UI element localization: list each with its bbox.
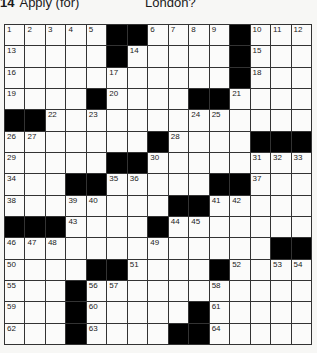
grid-cell[interactable] — [148, 174, 167, 194]
grid-cell[interactable] — [128, 238, 147, 258]
grid-cell[interactable] — [271, 281, 290, 301]
grid-cell[interactable] — [189, 238, 208, 258]
grid-cell[interactable]: 25 — [210, 110, 229, 130]
grid-cell[interactable] — [169, 281, 188, 301]
grid-cell[interactable] — [292, 68, 311, 88]
grid-cell[interactable] — [169, 153, 188, 173]
grid-cell[interactable]: 36 — [128, 174, 147, 194]
grid-cell[interactable]: 62 — [5, 324, 24, 344]
grid-cell[interactable]: 57 — [107, 281, 126, 301]
grid-cell[interactable] — [107, 110, 126, 130]
grid-cell[interactable]: 23 — [87, 110, 106, 130]
grid-cell[interactable] — [128, 110, 147, 130]
grid-cell[interactable] — [148, 68, 167, 88]
grid-cell[interactable] — [87, 68, 106, 88]
grid-cell[interactable] — [169, 260, 188, 280]
grid-cell[interactable] — [230, 324, 249, 344]
grid-cell[interactable]: 3 — [46, 25, 65, 45]
grid-cell[interactable] — [25, 153, 44, 173]
grid-cell[interactable]: 4 — [66, 25, 85, 45]
grid-cell[interactable] — [148, 302, 167, 322]
grid-cell[interactable]: 35 — [107, 174, 126, 194]
grid-cell[interactable] — [292, 281, 311, 301]
grid-cell[interactable] — [148, 281, 167, 301]
grid-cell[interactable] — [128, 196, 147, 216]
grid-cell[interactable]: 34 — [5, 174, 24, 194]
grid-cell[interactable] — [292, 46, 311, 66]
grid-cell[interactable]: 30 — [148, 153, 167, 173]
grid-cell[interactable] — [271, 324, 290, 344]
grid-cell[interactable]: 59 — [5, 302, 24, 322]
grid-cell[interactable] — [46, 68, 65, 88]
grid-cell[interactable] — [87, 153, 106, 173]
grid-cell[interactable] — [25, 46, 44, 66]
grid-cell[interactable] — [251, 302, 270, 322]
grid-cell[interactable]: 5 — [87, 25, 106, 45]
grid-cell[interactable] — [87, 217, 106, 237]
grid-cell[interactable] — [230, 302, 249, 322]
grid-cell[interactable] — [292, 324, 311, 344]
grid-cell[interactable] — [148, 46, 167, 66]
grid-cell[interactable]: 42 — [230, 196, 249, 216]
grid-cell[interactable] — [25, 324, 44, 344]
grid-cell[interactable] — [66, 153, 85, 173]
grid-cell[interactable]: 14 — [128, 46, 147, 66]
grid-cell[interactable]: 43 — [66, 217, 85, 237]
grid-cell[interactable]: 31 — [251, 153, 270, 173]
grid-cell[interactable] — [107, 302, 126, 322]
grid-cell[interactable]: 17 — [107, 68, 126, 88]
grid-cell[interactable] — [128, 324, 147, 344]
grid-cell[interactable]: 60 — [87, 302, 106, 322]
grid-cell[interactable] — [107, 238, 126, 258]
grid-cell[interactable] — [128, 132, 147, 152]
grid-cell[interactable]: 6 — [148, 25, 167, 45]
grid-cell[interactable] — [148, 260, 167, 280]
grid-cell[interactable] — [169, 89, 188, 109]
grid-cell[interactable] — [66, 238, 85, 258]
grid-cell[interactable] — [46, 281, 65, 301]
grid-cell[interactable]: 13 — [5, 46, 24, 66]
grid-cell[interactable] — [169, 174, 188, 194]
grid-cell[interactable] — [46, 196, 65, 216]
grid-cell[interactable] — [189, 132, 208, 152]
grid-cell[interactable] — [210, 153, 229, 173]
grid-cell[interactable]: 2 — [25, 25, 44, 45]
grid-cell[interactable]: 1 — [5, 25, 24, 45]
grid-cell[interactable]: 19 — [5, 89, 24, 109]
grid-cell[interactable] — [189, 46, 208, 66]
grid-cell[interactable] — [87, 132, 106, 152]
grid-cell[interactable] — [292, 174, 311, 194]
grid-cell[interactable] — [230, 153, 249, 173]
grid-cell[interactable] — [271, 196, 290, 216]
grid-cell[interactable] — [87, 46, 106, 66]
grid-cell[interactable] — [251, 196, 270, 216]
grid-cell[interactable] — [148, 110, 167, 130]
grid-cell[interactable] — [46, 174, 65, 194]
grid-cell[interactable]: 48 — [46, 238, 65, 258]
grid-cell[interactable] — [25, 302, 44, 322]
grid-cell[interactable] — [169, 68, 188, 88]
grid-cell[interactable] — [251, 238, 270, 258]
grid-cell[interactable] — [189, 174, 208, 194]
grid-cell[interactable]: 51 — [128, 260, 147, 280]
grid-cell[interactable]: 12 — [292, 25, 311, 45]
grid-cell[interactable] — [189, 68, 208, 88]
grid-cell[interactable]: 11 — [271, 25, 290, 45]
grid-cell[interactable] — [66, 260, 85, 280]
grid-cell[interactable]: 47 — [25, 238, 44, 258]
grid-cell[interactable] — [148, 196, 167, 216]
grid-cell[interactable]: 38 — [5, 196, 24, 216]
grid-cell[interactable] — [169, 238, 188, 258]
grid-cell[interactable]: 49 — [148, 238, 167, 258]
grid-cell[interactable] — [128, 281, 147, 301]
grid-cell[interactable] — [66, 46, 85, 66]
grid-cell[interactable] — [107, 324, 126, 344]
grid-cell[interactable]: 63 — [87, 324, 106, 344]
grid-cell[interactable] — [292, 302, 311, 322]
grid-cell[interactable] — [66, 68, 85, 88]
grid-cell[interactable] — [46, 153, 65, 173]
grid-cell[interactable] — [107, 196, 126, 216]
grid-cell[interactable] — [148, 324, 167, 344]
grid-cell[interactable]: 41 — [210, 196, 229, 216]
grid-cell[interactable]: 46 — [5, 238, 24, 258]
